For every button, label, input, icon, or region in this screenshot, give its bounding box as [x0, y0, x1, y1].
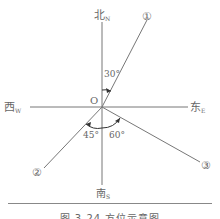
ray-2-label: ② [32, 166, 42, 179]
direction-diagram: 北N 南S 西W 东E O ① ② ③ 30° 45° 60° [0, 0, 220, 219]
angle-45-label: 45° [83, 130, 99, 140]
west-label: 西W [4, 101, 22, 114]
north-label: 北N [94, 9, 110, 22]
figure-caption: 图 3.24 方位示意图 [0, 210, 220, 219]
south-label: 南S [96, 187, 110, 200]
caption-rule [8, 203, 212, 204]
angle-30-label: 30° [104, 69, 120, 79]
ray-1-label: ① [142, 10, 152, 23]
east-label: 东E [190, 101, 205, 114]
ray-3-label: ③ [201, 159, 211, 172]
ray-1 [102, 20, 147, 107]
origin-label: O [90, 95, 98, 106]
angle-60-label: 60° [109, 130, 125, 140]
angle-arc-60 [102, 118, 120, 128]
